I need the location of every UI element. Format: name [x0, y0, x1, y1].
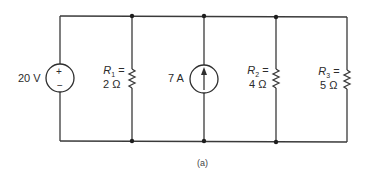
resistor-r2-icon — [273, 69, 279, 88]
equals-sign: = — [333, 65, 339, 77]
resistor-r3-branch — [344, 17, 350, 142]
node-dot — [202, 14, 206, 18]
figure-caption: (a) — [197, 158, 208, 168]
resistor-r3-value: 5 Ω — [320, 79, 337, 92]
resistor-r2-value: 4 Ω — [249, 78, 266, 91]
resistor-r2-branch — [273, 17, 279, 142]
resistor-r1-value: 2 Ω — [103, 78, 120, 91]
resistor-r3-icon — [344, 70, 350, 89]
resistor-r1-branch — [129, 16, 135, 141]
plus-sign: + — [56, 65, 62, 78]
minus-sign: − — [57, 79, 63, 92]
current-source-branch — [190, 16, 218, 141]
circuit-schematic — [0, 0, 368, 180]
node-dot — [274, 15, 278, 19]
node-dot — [274, 140, 278, 144]
equals-sign: = — [262, 64, 268, 76]
resistor-r1-icon — [129, 69, 135, 88]
voltage-source-value: 20 V — [18, 72, 41, 85]
equals-sign: = — [118, 64, 124, 76]
circuit-diagram: + − 20 V R1 = 2 Ω 7 A R2 = 4 Ω R3 = 5 Ω … — [0, 0, 368, 180]
current-source-value: 7 A — [168, 72, 184, 85]
node-dot — [202, 139, 206, 143]
node-dot — [130, 14, 134, 18]
node-dot — [130, 139, 134, 143]
